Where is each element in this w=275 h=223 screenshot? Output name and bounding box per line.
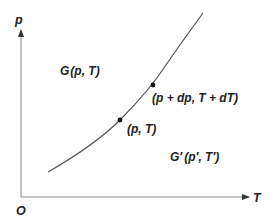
x-axis-label: T xyxy=(253,191,262,205)
y-axis-label: p xyxy=(14,13,23,27)
point-label-p-T: (p, T) xyxy=(127,122,156,136)
origin-label: O xyxy=(16,204,26,218)
point-label-p-dp-T-dT: (p + dp, T + dT) xyxy=(152,91,238,105)
point-p-dp-T-dT xyxy=(151,83,156,88)
phase-diagram: p T O (p, T) (p + dp, T + dT) G(p, T) G′… xyxy=(0,0,275,223)
region-label-G: G(p, T) xyxy=(60,64,100,78)
point-p-T xyxy=(118,118,123,123)
region-label-G-prime: G′(p′, T′) xyxy=(170,150,219,164)
